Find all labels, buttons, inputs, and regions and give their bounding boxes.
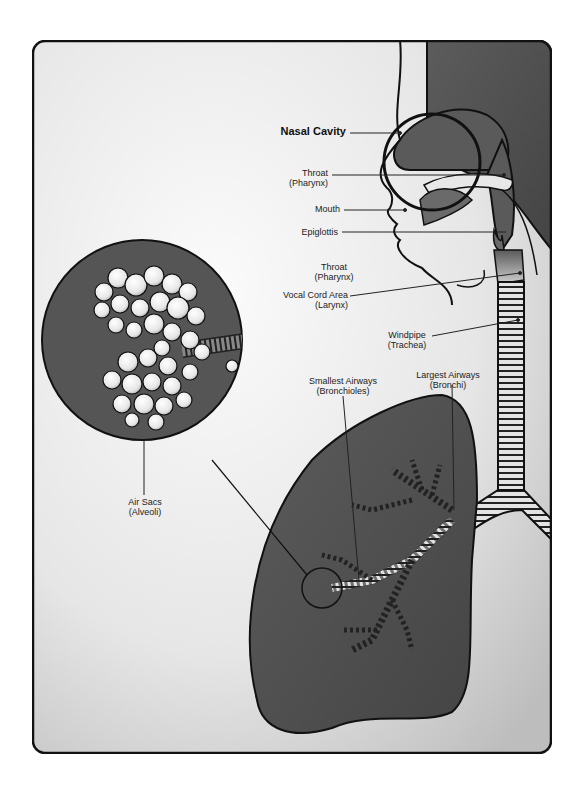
respiratory-diagram [32,40,552,754]
label-throat-lower-line2: (Pharynx) [304,272,364,282]
label-larynx-line2: (Larynx) [258,300,348,310]
label-mouth: Mouth [290,204,340,214]
label-alveoli: Air Sacs (Alveoli) [118,497,172,517]
label-trachea-line2: (Trachea) [384,340,430,350]
label-throat-lower-line1: Throat [304,262,364,272]
label-nasal-cavity: Nasal Cavity [254,126,346,136]
label-alveoli-line2: (Alveoli) [118,507,172,517]
label-trachea: Windpipe (Trachea) [384,330,430,350]
label-bronchioles-line1: Smallest Airways [300,376,386,386]
diagram-frame: Nasal Cavity Throat (Pharynx) Mouth Epig… [32,40,552,754]
label-bronchi: Largest Airways (Bronchi) [404,370,492,390]
label-throat-upper-line1: Throat [268,168,328,178]
trachea-shape [498,282,524,492]
label-throat-upper-line2: (Pharynx) [268,178,328,188]
label-epiglottis: Epiglottis [268,227,338,237]
label-bronchi-line2: (Bronchi) [404,380,492,390]
label-bronchi-line1: Largest Airways [404,370,492,380]
larynx-shape [494,250,524,284]
label-alveoli-line1: Air Sacs [118,497,172,507]
label-larynx: Vocal Cord Area (Larynx) [258,290,348,310]
label-throat-lower: Throat (Pharynx) [304,262,364,282]
label-trachea-line1: Windpipe [384,330,430,340]
label-bronchioles-line2: (Bronchioles) [300,386,386,396]
label-bronchioles: Smallest Airways (Bronchioles) [300,376,386,396]
label-larynx-line1: Vocal Cord Area [258,290,348,300]
label-throat-upper: Throat (Pharynx) [268,168,328,188]
